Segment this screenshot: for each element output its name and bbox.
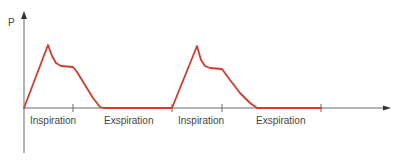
y-axis-arrow-icon bbox=[21, 11, 27, 19]
y-axis-label: P bbox=[8, 17, 15, 28]
x-axis-arrow-icon bbox=[383, 106, 391, 111]
pressure-curve bbox=[24, 45, 321, 108]
phase-label-expiration-1: Exspiration bbox=[104, 115, 153, 126]
phase-label-inspiration-2: Inspiration bbox=[178, 115, 224, 126]
pressure-chart: P Inspiration Exspiration Inspiration Ex… bbox=[0, 0, 396, 163]
phase-label-expiration-2: Exspiration bbox=[256, 115, 305, 126]
phase-label-inspiration-1: Inspiration bbox=[30, 115, 76, 126]
